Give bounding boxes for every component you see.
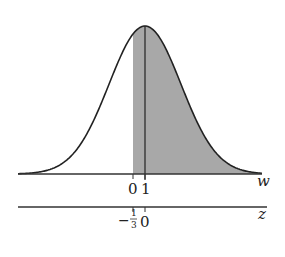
w-tick-label-1: 1 bbox=[141, 180, 151, 198]
normal-distribution-figure: 0 1 w − 1 3 0 z bbox=[0, 0, 285, 257]
z-tick-label-0: 0 bbox=[140, 213, 150, 231]
figure-svg: 0 1 w − 1 3 0 z bbox=[0, 0, 285, 257]
w-axis-label: w bbox=[257, 172, 270, 190]
w-tick-label-0: 0 bbox=[128, 180, 138, 198]
z-tick-label-num: 1 bbox=[131, 208, 137, 218]
shaded-area bbox=[133, 26, 262, 174]
z-tick-label-minus: − bbox=[118, 212, 130, 228]
z-tick-label-den: 3 bbox=[131, 220, 137, 230]
z-axis-label: z bbox=[257, 205, 266, 223]
